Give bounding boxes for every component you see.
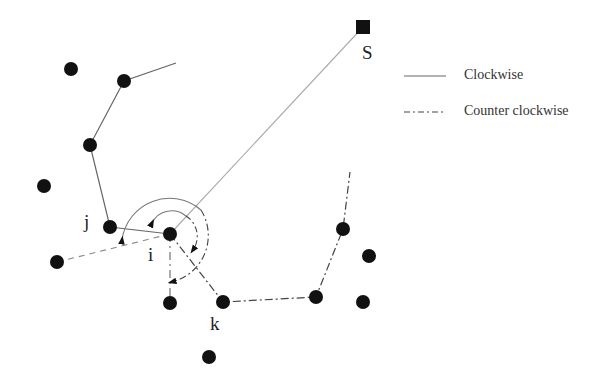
clockwise-path [90, 63, 176, 234]
node [362, 249, 376, 263]
node [309, 290, 323, 304]
node-i-label: i [148, 244, 153, 266]
inner-arc-solid [152, 211, 186, 223]
node [163, 296, 177, 310]
node [336, 222, 350, 236]
node [50, 255, 64, 269]
line-i-to-source [170, 27, 363, 234]
node [64, 62, 78, 76]
node-i [163, 227, 177, 241]
nodes [37, 20, 376, 364]
node [356, 295, 370, 309]
source-label: S [362, 42, 373, 64]
node-k-label: k [210, 313, 220, 335]
inner-arc-dashdot [186, 216, 197, 250]
outer-clockwise-arc [122, 198, 201, 240]
outer-dashdot-arc [172, 210, 208, 282]
legend-clockwise-label: Clockwise [464, 67, 523, 83]
node-j [103, 220, 117, 234]
node [83, 138, 97, 152]
node [202, 350, 216, 364]
source-node [356, 20, 370, 34]
node-k [216, 295, 230, 309]
legend-counter-clockwise-label: Counter clockwise [464, 103, 569, 119]
node-j-label: j [84, 211, 89, 233]
node [37, 179, 51, 193]
diagram-canvas [0, 0, 615, 385]
node [117, 74, 131, 88]
